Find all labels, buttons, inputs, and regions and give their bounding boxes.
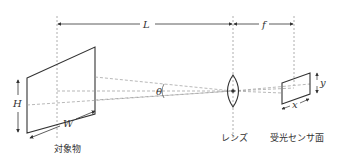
sensor-x-arrow-right (300, 99, 309, 103)
lens-caption: レンズ (221, 132, 248, 143)
imaging-diagram: L f θ H W y x 対象物 レンズ 受光センサ面 (0, 0, 337, 161)
focal-f-label: f (261, 19, 268, 30)
sensor-x-label: x (292, 99, 298, 110)
sensor-caption: 受光センサ面 (270, 132, 324, 143)
object-caption: 対象物 (54, 143, 81, 154)
angle-theta-label: θ (156, 86, 162, 97)
projection-rays (27, 77, 310, 105)
height-H-label: H (12, 98, 22, 109)
sensor-x-arrow-left (282, 106, 290, 109)
sensor-y-label: y (319, 77, 326, 88)
object-plane (27, 47, 95, 133)
width-W-label: W (63, 118, 74, 129)
lens-center (231, 89, 235, 93)
distance-L-label: L (142, 19, 150, 30)
